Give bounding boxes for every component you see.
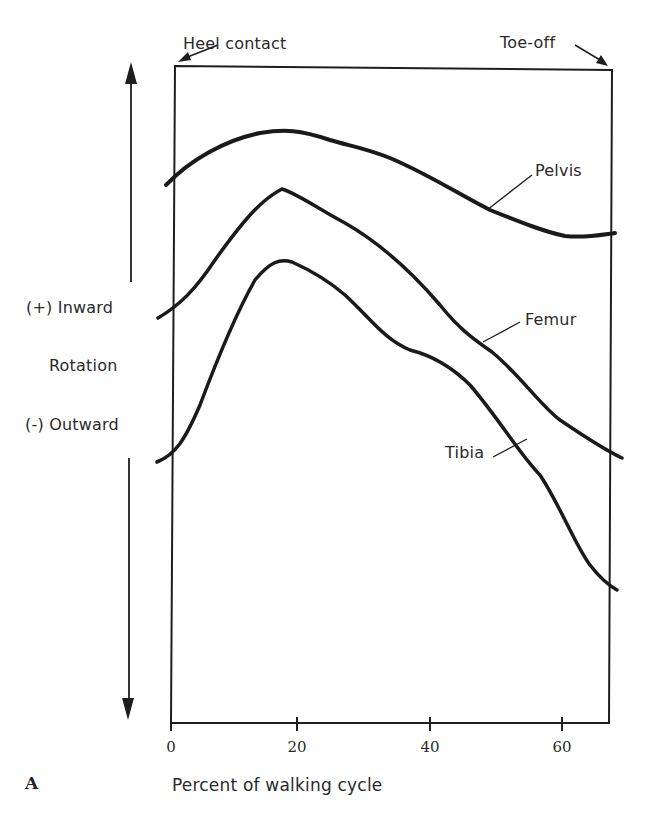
pelvis-leader-line — [487, 175, 532, 210]
rotation-axis-arrow — [122, 62, 137, 720]
toe-off-pointer — [575, 45, 608, 66]
toe-off-label: Toe-off — [500, 33, 555, 52]
chart-canvas — [0, 0, 649, 827]
inward-label: (+) Inward — [26, 298, 113, 317]
x-tick-60: 60 — [552, 738, 571, 756]
pelvis-label: Pelvis — [535, 161, 582, 180]
panel-label: A — [25, 773, 38, 793]
arrow-icon — [178, 52, 191, 62]
femur-label: Femur — [525, 310, 576, 329]
arrow-icon — [596, 55, 608, 66]
outward-label: (-) Outward — [25, 415, 119, 434]
heel-contact-label: Heel contact — [183, 34, 287, 53]
x-tick-40: 40 — [420, 738, 439, 756]
arrow-up-icon — [125, 62, 137, 84]
x-tick-20: 20 — [287, 738, 306, 756]
rotation-label: Rotation — [49, 356, 118, 375]
femur-leader-line — [483, 322, 520, 342]
tibia-label: Tibia — [445, 443, 484, 462]
pelvis-curve — [166, 131, 615, 237]
arrow-down-icon — [122, 698, 134, 720]
x-tick-0: 0 — [166, 738, 176, 756]
x-axis-title: Percent of walking cycle — [172, 775, 382, 795]
